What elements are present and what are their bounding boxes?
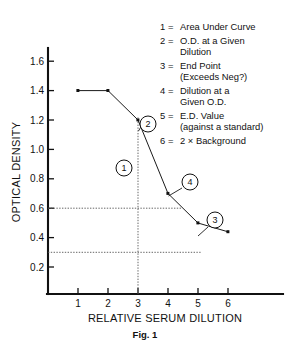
legend-item-5: 5 = E.D. Value (against a standard) xyxy=(160,110,263,132)
legend-key-5: 5 xyxy=(160,110,165,121)
x-tick-label-3: 4 xyxy=(165,298,171,309)
figure-container: 0.2 0.4 0.6 0.8 1.0 1.2 1.4 1.6 1 2 3 4 … xyxy=(0,0,291,342)
y-tick-label-7: 1.6 xyxy=(30,56,44,67)
legend-text-2-line-2: Dilution xyxy=(180,46,211,57)
legend-text-5-line-1: E.D. Value xyxy=(180,110,224,121)
legend-eq-6: = xyxy=(168,135,174,146)
legend-item-4: 4 = Dilution at a Given O.D. xyxy=(160,85,230,107)
legend-item-3: 3 = End Point (Exceeds Neg?) xyxy=(160,60,247,82)
y-axis-tick-labels: 0.2 0.4 0.6 0.8 1.0 1.2 1.4 1.6 xyxy=(30,56,44,273)
leader-line-3 xyxy=(198,227,208,236)
callout-label-3: 3 xyxy=(212,215,217,225)
legend-text-5-line-2: (against a standard) xyxy=(180,121,263,132)
y-tick-label-5: 1.2 xyxy=(30,115,44,126)
legend-eq-5: = xyxy=(168,110,174,121)
y-tick-label-1: 0.4 xyxy=(30,232,44,243)
legend-text-4-line-2: Given O.D. xyxy=(180,96,226,107)
data-point-1 xyxy=(76,89,79,92)
x-tick-label-2: 3 xyxy=(135,298,141,309)
data-point-6 xyxy=(226,230,229,233)
legend-eq-1: = xyxy=(168,21,174,32)
x-tick-label-1: 2 xyxy=(105,298,111,309)
callout-4: 4 xyxy=(182,174,198,190)
legend-text-1-line-1: Area Under Curve xyxy=(180,21,256,32)
y-tick-label-3: 0.8 xyxy=(30,173,44,184)
legend-item-6: 6 = 2 × Background xyxy=(160,135,246,146)
y-tick-label-2: 0.6 xyxy=(30,203,44,214)
legend-item-2: 2 = O.D. at a Given Dilution xyxy=(160,35,245,57)
legend-text-3-line-2: (Exceeds Neg?) xyxy=(180,71,247,82)
legend-key-3: 3 xyxy=(160,60,165,71)
callout-label-2: 2 xyxy=(145,119,150,129)
data-point-3 xyxy=(136,118,139,121)
legend-text-2-line-1: O.D. at a Given xyxy=(180,35,245,46)
legend-eq-4: = xyxy=(168,85,174,96)
y-tick-label-4: 1.0 xyxy=(30,144,44,155)
legend-key-6: 6 xyxy=(160,135,165,146)
legend-text-3-line-1: End Point xyxy=(180,60,221,71)
data-point-4 xyxy=(166,192,169,195)
legend-text-6-line-1: 2 × Background xyxy=(180,135,246,146)
legend-key-1: 1 xyxy=(160,21,165,32)
legend-group: 1 = Area Under Curve 2 = O.D. at a Given… xyxy=(160,21,263,146)
data-point-2 xyxy=(106,89,109,92)
legend-key-4: 4 xyxy=(160,85,165,96)
x-tick-label-0: 1 xyxy=(75,298,81,309)
callout-label-4: 4 xyxy=(187,177,192,187)
callout-1: 1 xyxy=(116,160,132,176)
legend-eq-3: = xyxy=(168,60,174,71)
x-tick-label-5: 6 xyxy=(225,298,231,309)
figure-caption: Fig. 1 xyxy=(133,329,159,340)
legend-key-2: 2 xyxy=(160,35,165,46)
callout-2: 2 xyxy=(140,116,156,132)
x-axis-tick-labels: 1 2 3 4 5 6 xyxy=(75,298,231,309)
y-axis-title: OPTICAL DENSITY xyxy=(10,121,22,222)
legend-eq-2: = xyxy=(168,35,174,46)
callout-label-1: 1 xyxy=(121,163,126,173)
y-tick-label-0: 0.2 xyxy=(30,262,44,273)
chart-svg: 0.2 0.4 0.6 0.8 1.0 1.2 1.4 1.6 1 2 3 4 … xyxy=(0,0,291,342)
legend-text-4-line-1: Dilution at a xyxy=(180,85,230,96)
x-axis-title: RELATIVE SERUM DILUTION xyxy=(88,312,242,324)
data-point-5 xyxy=(196,221,199,224)
legend-item-1: 1 = Area Under Curve xyxy=(160,21,256,32)
leader-line-4 xyxy=(169,188,183,196)
guide-lines-group xyxy=(48,117,201,294)
y-tick-label-6: 1.4 xyxy=(30,85,44,96)
callout-3: 3 xyxy=(207,212,223,228)
x-tick-label-4: 5 xyxy=(195,298,201,309)
